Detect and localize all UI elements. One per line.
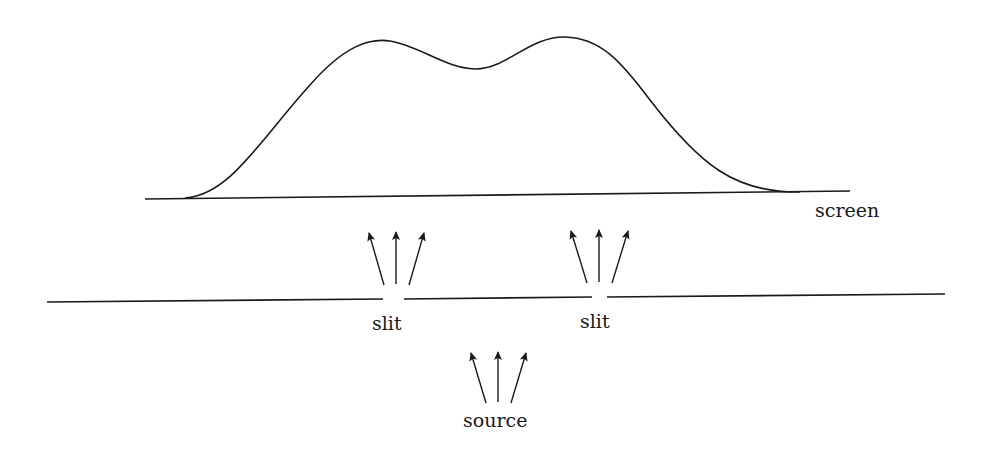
screen-line bbox=[145, 191, 850, 199]
right-slit-label: slit bbox=[580, 310, 610, 332]
screen-label: screen bbox=[815, 199, 879, 221]
barrier bbox=[47, 294, 945, 302]
double-slit-diagram: screen slit slit source bbox=[0, 0, 988, 458]
left-slit-arrows bbox=[369, 232, 424, 285]
left-slit-label: slit bbox=[372, 312, 402, 334]
source-arrows bbox=[471, 352, 526, 403]
source-label: source bbox=[463, 409, 527, 431]
intensity-curve bbox=[185, 37, 800, 198]
right-slit-arrows bbox=[571, 230, 628, 283]
